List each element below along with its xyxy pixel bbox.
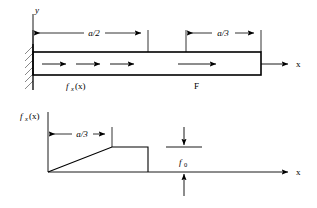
lower-y-f: f [20,111,24,121]
dimension-a-over-2-label: a/2 [88,28,100,38]
distributed-load-f: f [66,81,70,91]
point-force-label: F [194,81,199,91]
distributed-load-arg: (x) [75,81,86,91]
dimension-a-over-3-upper: a/3 [187,28,254,38]
load-distribution-profile [48,147,148,172]
upper-y-axis-label: y [34,5,39,15]
distributed-load-label: f x (x) [66,81,86,92]
lower-y-arg: (x) [29,111,40,121]
dimension-a-over-3-lower-label: a/3 [76,129,88,139]
lower-y-subscript: x [24,115,28,122]
amplitude-label-f0: f 0 [179,157,187,168]
amplitude-subscript: 0 [184,161,187,168]
lower-y-axis-label: f x (x) [20,111,40,122]
diagram-canvas: y a/2 a/3 x f x (x) F f [0,0,317,208]
fixed-wall-hatching [25,46,33,89]
figure-container: y a/2 a/3 x f x (x) F f [0,0,317,208]
distributed-load-subscript: x [70,85,74,92]
upper-x-axis-label: x [296,59,301,69]
lower-x-axis-label: x [296,167,301,177]
beam-body [33,52,261,75]
dimension-a-over-3-upper-label: a/3 [217,28,229,38]
dimension-a-over-3-lower: a/3 [49,129,105,139]
dimension-a-over-2: a/2 [34,28,141,38]
amplitude-f: f [179,157,183,167]
